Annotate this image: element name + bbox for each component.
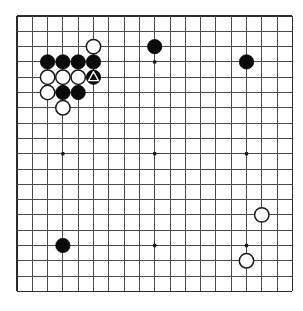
black-stone-disc: [148, 39, 162, 53]
star-point: [153, 244, 157, 248]
star-point: [153, 152, 157, 156]
white-stone[interactable]: [56, 101, 70, 115]
black-stone-disc: [56, 85, 70, 99]
star-point: [61, 152, 65, 156]
black-stone-disc: [71, 55, 85, 69]
black-stone[interactable]: [86, 55, 100, 69]
black-stone-disc: [56, 238, 70, 252]
white-stone-disc: [56, 70, 70, 84]
black-stone[interactable]: [86, 70, 100, 84]
black-stone-disc: [239, 55, 253, 69]
white-stone[interactable]: [40, 70, 54, 84]
white-stone-disc: [56, 101, 70, 115]
white-stone[interactable]: [255, 208, 269, 222]
black-stone[interactable]: [56, 85, 70, 99]
black-stone-disc: [86, 55, 100, 69]
white-stone[interactable]: [86, 39, 100, 53]
star-point: [245, 152, 249, 156]
go-board-diagram: [0, 0, 303, 311]
white-stone-disc: [40, 70, 54, 84]
star-point: [245, 244, 249, 248]
white-stone[interactable]: [56, 70, 70, 84]
black-stone-disc: [40, 55, 54, 69]
white-stone-disc: [255, 208, 269, 222]
black-stone[interactable]: [56, 238, 70, 252]
star-point: [153, 60, 157, 64]
black-stone[interactable]: [71, 85, 85, 99]
white-stone-disc: [71, 70, 85, 84]
black-stone-disc: [56, 55, 70, 69]
black-stone-disc: [71, 85, 85, 99]
white-stone-disc: [86, 39, 100, 53]
white-stone[interactable]: [71, 70, 85, 84]
white-stone-disc: [40, 85, 54, 99]
black-stone[interactable]: [56, 55, 70, 69]
white-stone[interactable]: [239, 254, 253, 268]
black-stone[interactable]: [148, 39, 162, 53]
black-stone[interactable]: [71, 55, 85, 69]
white-stone[interactable]: [40, 85, 54, 99]
black-stone[interactable]: [40, 55, 54, 69]
black-stone[interactable]: [239, 55, 253, 69]
white-stone-disc: [239, 254, 253, 268]
go-board-canvas[interactable]: [0, 0, 303, 311]
